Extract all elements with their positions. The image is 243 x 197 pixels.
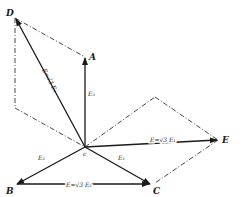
label-E3: E₃ xyxy=(87,90,95,97)
phasor-diagram: D A E B C c E₃ E₂ E₁ E=√3 E₃ E=√3 E₁ E=√… xyxy=(0,0,243,197)
label-B: B xyxy=(5,186,14,196)
label-EE: E=√3 E₁ xyxy=(149,136,176,143)
label-A: A xyxy=(88,52,96,62)
label-C: C xyxy=(153,186,161,196)
label-E2: E₂ xyxy=(37,154,45,161)
vector-E2 xyxy=(17,147,85,184)
dashed-E-C xyxy=(155,140,218,183)
dashed-top-right-E xyxy=(155,97,218,140)
label-D: D xyxy=(5,8,14,18)
vector-E1 xyxy=(85,147,150,184)
label-ED: E=√3 E₃ xyxy=(41,66,60,93)
label-origin: c xyxy=(83,150,87,157)
dashed-origin-top-right xyxy=(85,97,155,147)
label-EBC: E=√3 E₂ xyxy=(65,181,92,188)
label-E1: E₁ xyxy=(117,154,125,161)
label-E: E xyxy=(221,135,229,145)
